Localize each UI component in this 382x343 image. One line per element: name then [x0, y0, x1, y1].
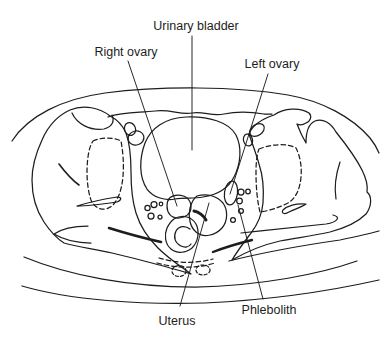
right-ovary-leader-line [128, 61, 177, 206]
body-outline-bottom-inner-arc [24, 257, 357, 287]
body-outline-bottom-outer-arc [22, 280, 379, 303]
right-muscle-stroke [59, 164, 79, 185]
label-left-ovary: Left ovary [245, 57, 301, 71]
phlebolith-dot [148, 213, 154, 219]
right-iliac-crest-fold [72, 113, 113, 129]
label-urinary-bladder: Urinary bladder [153, 19, 238, 33]
label-phlebolith: Phlebolith [242, 303, 297, 317]
bowel-comma-inner-hook [175, 227, 191, 248]
left-iliac-arm-line [241, 215, 337, 233]
rectum-dashed-line-upper [159, 258, 213, 262]
left-dark-crescent [213, 240, 252, 252]
phlebolith-dot [231, 218, 236, 223]
phlebolith-dot [237, 198, 243, 204]
left-muscle-stroke [335, 162, 340, 199]
phlebolith-dot [238, 189, 244, 195]
midline-dashed-oval-right [196, 265, 210, 275]
uterus-leader-line [180, 203, 209, 306]
label-right-ovary: Right ovary [94, 45, 158, 59]
phlebolith-dot [158, 215, 162, 219]
label-uterus: Uterus [159, 314, 196, 328]
uterus-body-outline [189, 195, 226, 236]
pelvic-brim-line [108, 111, 272, 117]
phlebolith-dot [246, 189, 251, 194]
phlebolith-cluster-left-side [231, 189, 251, 222]
right-dark-crescent [109, 228, 161, 242]
left-bone-sliver [282, 204, 306, 214]
phlebolith-dot [159, 202, 163, 206]
phlebolith-cluster-right-side [145, 202, 163, 220]
pelvis-axial-diagram: Urinary bladder Right ovary Left ovary U… [0, 0, 382, 343]
right-bone-sliver [77, 197, 121, 206]
right-iliac-mass-outline [32, 107, 191, 274]
urinary-bladder-outline [141, 117, 240, 200]
left-bowel-loop-small [242, 133, 254, 147]
phlebolith-dot [145, 205, 150, 210]
phlebolith-dot [151, 202, 157, 208]
diagram-canvas: Urinary bladder Right ovary Left ovary U… [0, 0, 382, 343]
